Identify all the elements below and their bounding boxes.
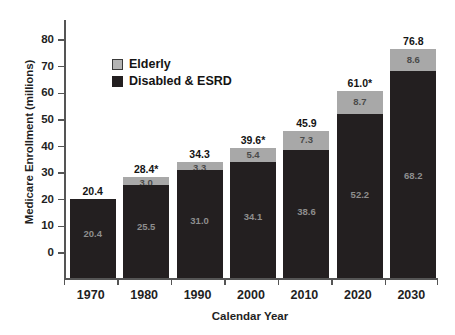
bar-1990[interactable]: 3.331.0 [177,162,223,278]
bar-total-label-1970: 20.4 [70,185,116,197]
bar-segment-disabled-esrd[interactable]: 34.1 [230,162,276,278]
x-axis-tick [64,278,65,285]
bar-segment-disabled-esrd[interactable]: 31.0 [177,170,223,278]
bar-segment-disabled-esrd[interactable]: 52.2 [337,114,383,278]
bar-segment-disabled-esrd[interactable]: 20.4 [70,199,116,278]
y-axis-tick [58,199,64,200]
y-axis-line [64,20,66,278]
bar-value-disabled-esrd: 52.2 [337,190,383,200]
bar-segment-elderly[interactable]: 8.7 [337,91,383,114]
y-axis-tick-label: 80 [20,33,54,45]
x-axis-tick [278,278,279,285]
y-axis-tick-label: 30 [20,166,54,178]
x-axis-tick-label: 2000 [222,288,280,302]
x-axis-title: Calendar Year [60,310,440,322]
y-axis-tick-label: 40 [20,140,54,152]
y-axis-tick-label: 70 [20,60,54,72]
y-axis-tick [58,252,64,253]
bar-2030[interactable]: 8.668.2 [390,49,436,278]
bar-segment-disabled-esrd[interactable]: 25.5 [123,185,169,278]
bar-total-label-1980: 28.4* [123,163,169,175]
y-axis-tick-label: 0 [20,246,54,258]
legend-swatch-elderly-icon [112,59,123,70]
legend-item-disabled-esrd: Disabled & ESRD [112,74,232,88]
y-axis-tick [58,226,64,227]
y-axis-tick [58,93,64,94]
bar-1970[interactable]: 20.4 [70,199,116,278]
legend-label-disabled-esrd: Disabled & ESRD [129,74,232,88]
bar-2010[interactable]: 7.338.6 [283,131,329,278]
y-axis-tick-label: 10 [20,219,54,231]
x-axis-tick-label: 1980 [115,288,173,302]
x-axis-tick [171,278,172,285]
legend-swatch-disabled-esrd-icon [112,76,123,87]
y-axis-tick [58,39,64,40]
legend-item-elderly: Elderly [112,57,232,71]
bar-total-label-2030: 76.8 [390,35,436,47]
legend-label-elderly: Elderly [129,57,171,71]
x-axis-tick [331,278,332,285]
bar-value-disabled-esrd: 20.4 [70,229,116,239]
bar-value-elderly: 5.4 [230,150,276,160]
medicare-enrollment-chart: Medicare Enrollment (millions) 010203040… [0,0,455,335]
bar-value-disabled-esrd: 31.0 [177,216,223,226]
x-axis-tick-label: 2010 [275,288,333,302]
bar-value-disabled-esrd: 68.2 [390,171,436,181]
x-axis-tick [437,278,438,285]
x-axis-tick [224,278,225,285]
bar-segment-elderly[interactable]: 3.0 [123,177,169,185]
bar-value-elderly: 8.6 [390,55,436,65]
bar-total-label-2000: 39.6* [230,134,276,146]
bar-value-disabled-esrd: 34.1 [230,212,276,222]
y-axis-tick-label: 60 [20,86,54,98]
y-axis-tick-label: 50 [20,113,54,125]
bar-segment-elderly[interactable]: 7.3 [283,131,329,150]
x-axis-tick-label: 1990 [169,288,227,302]
bar-segment-elderly[interactable]: 5.4 [230,148,276,163]
x-axis-line [64,278,438,280]
x-axis-tick [117,278,118,285]
bar-total-label-2010: 45.9 [283,117,329,129]
bar-value-disabled-esrd: 38.6 [283,207,329,217]
y-axis-tick [58,172,64,173]
x-axis-tick-label: 2030 [382,288,440,302]
x-axis-tick-label: 1970 [62,288,120,302]
bar-2000[interactable]: 5.434.1 [230,148,276,278]
bar-segment-disabled-esrd[interactable]: 68.2 [390,71,436,278]
bar-value-disabled-esrd: 25.5 [123,222,169,232]
bar-2020[interactable]: 8.752.2 [337,91,383,278]
x-axis-tick [385,278,386,285]
y-axis-tick [58,146,64,147]
bar-segment-disabled-esrd[interactable]: 38.6 [283,150,329,278]
bar-segment-elderly[interactable]: 8.6 [390,49,436,72]
bar-total-label-2020: 61.0* [337,77,383,89]
y-axis-tick-label: 20 [20,193,54,205]
x-axis-tick-label: 2020 [329,288,387,302]
bar-1980[interactable]: 3.025.5 [123,177,169,278]
bar-total-label-1990: 34.3 [177,148,223,160]
chart-legend: Elderly Disabled & ESRD [112,57,232,91]
bar-value-elderly: 7.3 [283,135,329,145]
bar-value-elderly: 8.7 [337,97,383,107]
y-axis-tick [58,66,64,67]
bar-segment-elderly[interactable]: 3.3 [177,162,223,171]
y-axis-tick [58,119,64,120]
